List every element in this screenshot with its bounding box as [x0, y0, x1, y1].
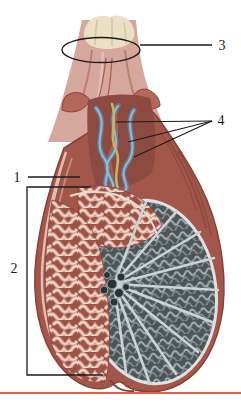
anatomy-illustration: 1 2 3 4 — [0, 0, 241, 404]
label-4: 4 — [218, 113, 225, 128]
cord-cut-end — [84, 15, 134, 49]
label-2: 2 — [11, 261, 18, 276]
label-3: 3 — [219, 38, 226, 53]
page-rule — [0, 392, 241, 394]
figure: 1 2 3 4 — [0, 0, 241, 404]
label-1: 1 — [14, 170, 21, 185]
